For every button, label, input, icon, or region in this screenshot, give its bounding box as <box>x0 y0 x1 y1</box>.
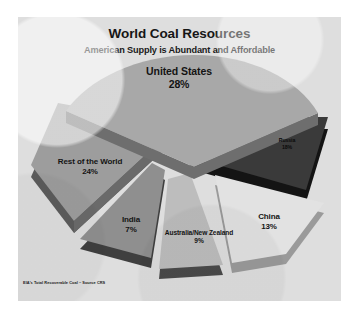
pie-label-australia-new-zealand: Australia/New Zealand 9% <box>156 229 242 246</box>
pie-label-china-name: China <box>238 212 300 222</box>
pie-label-united-states-value: 28% <box>114 78 244 91</box>
pie-slice-australia-new-zealand <box>159 173 223 279</box>
title-block: World Coal Resources American Supply is … <box>18 26 341 57</box>
pie-label-india-name: India <box>100 215 162 225</box>
pie-label-united-states-name: United States <box>114 65 244 78</box>
pie-label-china-value: 13% <box>238 222 300 232</box>
pie-label-australia-new-zealand-value: 9% <box>156 237 242 245</box>
pie-label-russia-value: 18% <box>250 144 324 151</box>
chart-subtitle: American Supply is Abundant and Affordab… <box>18 44 341 57</box>
chart-panel: World Coal Resources American Supply is … <box>18 17 341 301</box>
pie-label-russia-name: Russia <box>250 137 324 144</box>
pie-label-russia: Russia 18% <box>250 137 324 150</box>
pie-label-india-value: 7% <box>100 225 162 235</box>
pie-label-rest-of-the-world-name: Rest of the World <box>36 157 144 167</box>
pie-label-united-states: United States 28% <box>114 65 244 91</box>
pie-label-rest-of-the-world-value: 24% <box>36 167 144 177</box>
pie-label-india: India 7% <box>100 215 162 235</box>
chart-footnote: EIA's Total Recoverable Coal – Source CR… <box>23 280 105 285</box>
chart-title: World Coal Resources <box>18 26 341 42</box>
pie-label-rest-of-the-world: Rest of the World 24% <box>36 157 144 177</box>
pie-label-australia-new-zealand-name: Australia/New Zealand <box>156 229 242 237</box>
pie-label-china: China 13% <box>238 212 300 232</box>
